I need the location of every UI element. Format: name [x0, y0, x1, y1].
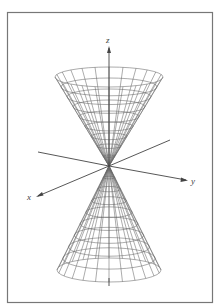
y-axis-label: y	[190, 176, 195, 186]
cone-meridian	[109, 70, 147, 166]
coordinate-axes	[38, 48, 186, 286]
z-arrowhead	[107, 46, 111, 53]
y-axis	[109, 166, 186, 180]
cone-meridian	[109, 166, 146, 278]
cone-figure: z y x	[0, 0, 216, 305]
cone-meridian	[71, 70, 109, 166]
y-arrowhead	[181, 178, 189, 183]
x-axis-back	[109, 140, 170, 166]
cone-meridian	[109, 166, 154, 276]
z-axis-label: z	[105, 35, 110, 45]
y-axis-back	[38, 152, 109, 166]
cone-meridian	[72, 166, 109, 278]
x-axis-label: x	[26, 192, 31, 202]
x-arrowhead	[36, 192, 44, 197]
